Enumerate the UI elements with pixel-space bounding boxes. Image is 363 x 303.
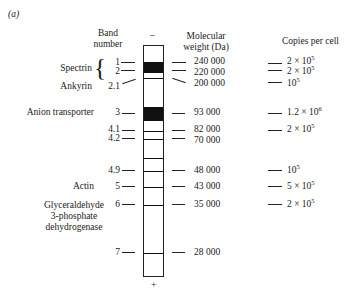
right-tick-2-1: [172, 78, 186, 83]
copies-tick-2-1: [268, 82, 282, 83]
mw-6: 35 000: [194, 200, 220, 210]
protein-gapdh: Glyceraldehyde 3-phosphate dehydrogenase: [38, 200, 110, 233]
right-tick-2: [172, 70, 186, 71]
copies-6-exp: 5: [311, 197, 314, 204]
band-number-header: Band number: [83, 28, 133, 50]
copies-tick-3: [268, 113, 282, 114]
copies-tick-5: [268, 186, 282, 187]
mw-5: 43 000: [194, 182, 220, 192]
band-number-4-2: 4.2: [100, 134, 120, 144]
mw-4-1: 82 000: [194, 125, 220, 135]
left-tick-4-9: [122, 170, 135, 171]
band-anion-transporter: [144, 107, 163, 121]
band-number-5: 5: [104, 182, 120, 192]
protein-anion-transporter: Anion transporter: [0, 108, 94, 118]
band-unlabeled: [144, 158, 163, 159]
copies-2: 2 × 105: [287, 67, 315, 77]
band-number-2: 2: [104, 67, 120, 77]
positive-pole-label: +: [151, 281, 156, 291]
left-tick-3: [122, 113, 135, 114]
copies-tick-4-1: [268, 130, 282, 131]
copies-per-cell-header: Copies per cell: [282, 37, 339, 47]
right-tick-3: [172, 113, 185, 114]
band-number-3: 3: [104, 108, 120, 118]
band-number-6: 6: [104, 200, 120, 210]
gapdh-line3: dehydrogenase: [38, 222, 110, 233]
left-tick-4-1: [122, 130, 135, 131]
mw-4-2: 70 000: [194, 136, 220, 146]
protein-ankyrin: Ankyrin: [40, 82, 92, 92]
copies-4-1-exp: 5: [311, 122, 314, 129]
copies-6-base: 2 × 10: [287, 199, 311, 209]
left-tick-7: [122, 252, 135, 253]
copies-1-exp: 5: [311, 54, 314, 61]
copies-tick-4-9: [268, 170, 282, 171]
left-tick-2-1: [122, 79, 136, 84]
protein-actin: Actin: [40, 182, 94, 192]
band-4-1: [144, 131, 163, 132]
negative-pole-label: –: [150, 31, 155, 41]
right-tick-4-2: [172, 138, 185, 139]
right-tick-6: [172, 204, 185, 205]
copies-2-base: 2 × 10: [287, 66, 311, 76]
protein-spectrin: Spectrin: [40, 64, 92, 74]
copies-2-1-exp: 5: [297, 76, 300, 83]
band-4-9: [144, 171, 163, 172]
band-4-2: [144, 139, 163, 140]
copies-tick-2: [268, 70, 282, 71]
copies-1-base: 2 × 10: [287, 56, 311, 66]
left-tick-4-2: [122, 138, 135, 139]
copies-5-exp: 5: [311, 179, 314, 186]
copies-5-base: 5 × 10: [287, 181, 311, 191]
copies-3-exp: 6: [318, 105, 321, 112]
copies-tick-1: [268, 63, 282, 64]
mw-1: 240 000: [194, 57, 225, 67]
gapdh-line1: Glyceraldehyde: [38, 200, 110, 211]
mw-header-line2: weight (Da): [176, 42, 236, 53]
right-tick-5: [172, 186, 185, 187]
right-tick-7: [172, 252, 185, 253]
mw-2: 220 000: [194, 68, 225, 78]
right-tick-4-9: [172, 170, 185, 171]
left-tick-2: [121, 70, 135, 71]
mw-3: 93 000: [194, 108, 220, 118]
copies-5: 5 × 105: [287, 182, 315, 192]
copies-2-exp: 5: [311, 64, 314, 71]
gel-lane: [143, 45, 164, 277]
band-actin: [144, 187, 163, 188]
band-number-header-line1: Band: [83, 28, 133, 39]
right-tick-1: [172, 62, 186, 63]
mw-4-9: 48 000: [194, 166, 220, 176]
copies-2-1-base: 10: [287, 78, 297, 88]
band-ankyrin: [144, 78, 163, 79]
copies-tick-6: [268, 204, 282, 205]
left-tick-6: [122, 204, 135, 205]
mw-header-line1: Molecular: [176, 31, 236, 42]
right-tick-4-1: [172, 130, 185, 131]
copies-6: 2 × 105: [287, 200, 315, 210]
copies-4-9-base: 10: [287, 165, 297, 175]
left-tick-1: [121, 62, 135, 63]
mw-2-1: 200 000: [194, 79, 225, 89]
molecular-weight-header: Molecular weight (Da): [176, 31, 236, 53]
gapdh-line2: 3-phosphate: [38, 211, 110, 222]
copies-3-base: 1.2 × 10: [287, 107, 318, 117]
copies-4-9-exp: 5: [297, 163, 300, 170]
copies-4-9: 105: [287, 166, 300, 176]
band-number-7: 7: [104, 248, 120, 258]
copies-3: 1.2 × 106: [287, 108, 322, 118]
band-number-4-9: 4.9: [100, 166, 120, 176]
band-7: [144, 253, 163, 254]
copies-2-1: 105: [287, 79, 300, 89]
panel-label: (a): [8, 10, 19, 20]
left-tick-5: [122, 186, 135, 187]
copies-4-1: 2 × 105: [287, 125, 315, 135]
band-spectrin: [144, 62, 163, 73]
mw-7: 28 000: [194, 248, 220, 258]
band-gapdh: [144, 205, 163, 206]
band-number-header-line2: number: [83, 39, 133, 50]
copies-4-1-base: 2 × 10: [287, 124, 311, 134]
band-number-2-1: 2.1: [100, 82, 120, 92]
